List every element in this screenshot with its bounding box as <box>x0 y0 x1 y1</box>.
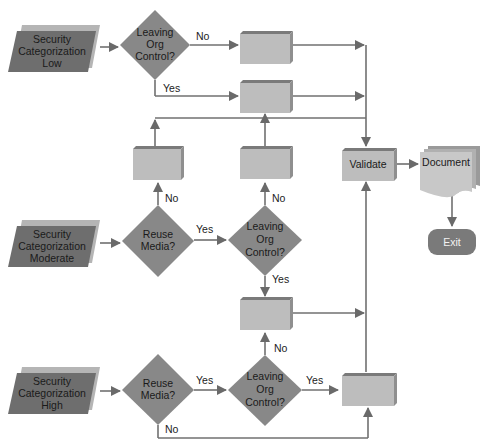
input-high: Security Categorization High <box>8 367 100 414</box>
svg-text:Control?: Control? <box>245 396 285 408</box>
process-box-5 <box>240 297 293 330</box>
input-low-line3: Low <box>42 57 62 69</box>
svg-text:Media?: Media? <box>141 389 176 401</box>
exit-terminator: Exit <box>428 229 476 255</box>
edge-mod-reuse-no: No <box>165 192 179 204</box>
document-shape: Document <box>420 146 480 197</box>
svg-text:Reuse: Reuse <box>143 228 174 240</box>
edge-mod-leaving-no: No <box>272 192 286 204</box>
process-box-3 <box>133 146 184 180</box>
edge-high-reuse-no: No <box>165 423 179 435</box>
edge-box5-no: No <box>274 342 288 354</box>
exit-label: Exit <box>443 236 461 248</box>
process-box-4 <box>240 146 293 179</box>
svg-text:Org: Org <box>256 383 274 395</box>
input-high-line1: Security <box>33 375 72 387</box>
svg-text:Control?: Control? <box>135 50 175 62</box>
svg-text:Org: Org <box>256 233 274 245</box>
svg-text:Control?: Control? <box>245 246 285 258</box>
process-box-6 <box>342 373 397 406</box>
svg-text:Media?: Media? <box>141 240 176 252</box>
input-moderate-line3: Moderate <box>30 252 75 264</box>
input-moderate-line2: Categorization <box>18 240 86 252</box>
edge-mod-leaving-yes: Yes <box>272 273 289 285</box>
edge-high-reuse-yes: Yes <box>196 374 213 386</box>
decision-high-reuse-media: Reuse Media? <box>122 354 194 425</box>
decision-moderate-leaving-org-control: Leaving Org Control? <box>228 205 302 276</box>
svg-text:Leaving: Leaving <box>247 220 284 232</box>
process-box-1 <box>240 31 293 64</box>
input-high-line3: High <box>41 399 63 411</box>
edge-low-yes: Yes <box>163 82 180 94</box>
svg-text:Reuse: Reuse <box>143 377 174 389</box>
decision-moderate-reuse-media: Reuse Media? <box>122 205 194 277</box>
validate-box: Validate <box>342 148 397 181</box>
flowchart: Security Categorization Low Security Cat… <box>0 0 489 445</box>
decision-low-leaving-org-control: Leaving Org Control? <box>120 10 190 80</box>
svg-text:Leaving: Leaving <box>137 26 174 38</box>
input-low: Security Categorization Low <box>8 25 100 72</box>
input-low-line1: Security <box>33 33 72 45</box>
document-label: Document <box>422 156 470 168</box>
svg-text:Org: Org <box>146 38 164 50</box>
svg-text:Leaving: Leaving <box>247 370 284 382</box>
edge-mod-reuse-yes: Yes <box>196 223 213 235</box>
input-low-line2: Categorization <box>18 45 86 57</box>
input-high-line2: Categorization <box>18 387 86 399</box>
process-box-2 <box>240 80 293 113</box>
input-moderate-line1: Security <box>33 228 72 240</box>
edge-low-no: No <box>196 30 210 42</box>
input-moderate: Security Categorization Moderate <box>8 220 100 267</box>
validate-label: Validate <box>349 158 386 170</box>
decision-high-leaving-org-control: Leaving Org Control? <box>228 355 302 426</box>
edge-high-leaving-yes: Yes <box>306 374 323 386</box>
